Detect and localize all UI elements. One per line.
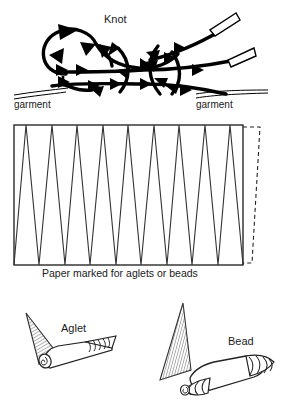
garment-label-right: garment (196, 100, 233, 110)
arrowhead-6 (76, 64, 88, 76)
aglet-label: Aglet (61, 323, 86, 334)
bead-label: Bead (228, 336, 254, 347)
arrowhead-2 (49, 48, 64, 64)
bead-paper-triangle (160, 303, 191, 380)
knot-strand-upper-right (150, 30, 222, 60)
bead-spiral-end (181, 385, 190, 395)
figure-root: Knot garment garment Paper marked for ag… (0, 0, 283, 410)
zigzag-polyline (14, 125, 243, 265)
garment-label-left: garment (14, 100, 51, 110)
paper-caption: Paper marked for aglets or beads (42, 268, 198, 279)
paper-dashed-flap (243, 127, 260, 263)
arrowhead-3 (80, 42, 96, 56)
paper-rectangle (14, 125, 243, 265)
garment-line-right-b (196, 93, 268, 98)
paper-zigzag (14, 125, 243, 265)
needle-tip-lower (228, 48, 256, 67)
garment-lines (14, 88, 268, 99)
paper-box-outline (14, 125, 243, 265)
garment-line-left-a (14, 88, 68, 95)
knot-label: Knot (104, 14, 127, 25)
garment-line-left-b (14, 92, 66, 99)
arrowhead-1 (58, 24, 78, 40)
dashed-flap-path (243, 127, 260, 263)
figure-canvas (0, 0, 283, 410)
needle-tips (210, 13, 256, 67)
arrowhead-8 (110, 78, 122, 90)
bead-illustration (160, 303, 274, 395)
needle-tip-upper (210, 13, 240, 36)
knot-diagram (43, 29, 236, 94)
